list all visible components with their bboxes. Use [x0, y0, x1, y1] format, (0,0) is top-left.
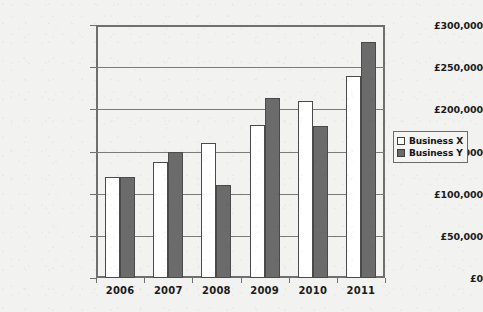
y-axis-label: £200,000 — [397, 104, 483, 115]
bars-layer — [96, 25, 385, 278]
legend-item-business-x: Business X — [397, 135, 463, 147]
bar-business-x-2009 — [250, 125, 265, 278]
x-axis-tick — [385, 278, 386, 283]
bar-business-x-2007 — [153, 162, 168, 278]
x-axis-tick — [192, 278, 193, 283]
x-axis-tick — [337, 278, 338, 283]
bar-business-x-2008 — [201, 143, 216, 278]
legend-item-business-y: Business Y — [397, 147, 463, 159]
legend-label-business-x: Business X — [409, 136, 463, 146]
legend-label-business-y: Business Y — [409, 148, 463, 158]
y-axis-label: £100,000 — [397, 188, 483, 199]
x-axis-label-2011: 2011 — [347, 285, 376, 296]
bar-business-x-2010 — [298, 101, 313, 278]
y-axis-label: £300,000 — [397, 20, 483, 31]
y-axis-label: £0 — [397, 273, 483, 284]
x-axis-label-2006: 2006 — [106, 285, 135, 296]
x-axis-label-2009: 2009 — [250, 285, 279, 296]
x-axis-label-2010: 2010 — [298, 285, 327, 296]
legend-swatch-icon-business-x — [397, 137, 405, 145]
x-axis-tick — [96, 278, 97, 283]
bar-business-y-2010 — [313, 126, 328, 278]
x-axis-label-2007: 2007 — [154, 285, 183, 296]
x-axis-tick — [144, 278, 145, 283]
bar-business-y-2011 — [361, 42, 376, 278]
bar-business-y-2006 — [120, 177, 135, 278]
x-axis-label-2008: 2008 — [202, 285, 231, 296]
y-axis-label: £50,000 — [397, 230, 483, 241]
y-axis-label: £250,000 — [397, 62, 483, 73]
x-axis-tick — [241, 278, 242, 283]
bar-business-y-2009 — [265, 98, 280, 278]
bar-business-y-2007 — [168, 152, 183, 279]
bar-business-x-2011 — [346, 76, 361, 278]
chart-legend: Business X Business Y — [393, 131, 468, 163]
bar-business-y-2008 — [216, 185, 231, 278]
bar-business-x-2006 — [105, 177, 120, 278]
x-axis-tick — [289, 278, 290, 283]
bar-chart: £0£50,000£100,000£150,000£200,000£250,00… — [0, 0, 483, 312]
legend-swatch-icon-business-y — [397, 149, 405, 157]
